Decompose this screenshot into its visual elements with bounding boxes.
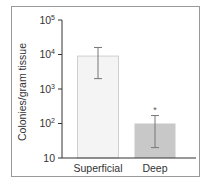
significance-marker: *	[153, 105, 157, 115]
y-tick-label: 10	[43, 152, 55, 164]
x-tick-label: Deep	[142, 162, 167, 174]
x-tick-label: Superficial	[73, 162, 122, 174]
bar-chart: * 10102103104105 Colonies/gram tissue Su…	[0, 0, 216, 186]
y-axis-label: Colonies/gram tissue	[16, 43, 28, 141]
